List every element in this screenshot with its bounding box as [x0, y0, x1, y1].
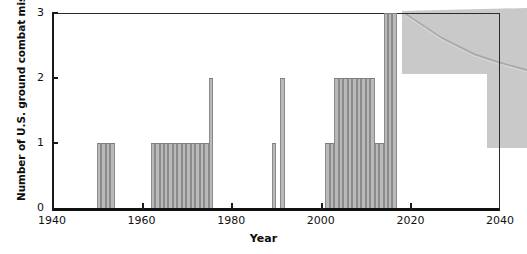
x-tick-label: 2040: [477, 215, 523, 226]
bar: [110, 143, 114, 208]
x-tick-mark: [410, 203, 412, 210]
x-axis-title: Year: [0, 232, 527, 245]
x-tick-label: 1980: [208, 215, 254, 226]
x-tick-mark: [321, 203, 323, 210]
y-tick-label: 0: [30, 202, 44, 213]
bars-layer: [52, 13, 500, 208]
x-tick-label: 2000: [298, 215, 344, 226]
bar: [272, 143, 276, 208]
bar: [392, 13, 396, 208]
x-tick-label: 1940: [29, 215, 75, 226]
plot-area: [52, 13, 500, 211]
bar: [209, 78, 213, 208]
x-tick-mark: [231, 203, 233, 210]
y-tick-label: 2: [30, 72, 44, 83]
bar: [280, 78, 284, 208]
y-tick-mark: [52, 142, 58, 144]
x-tick-mark: [142, 203, 144, 210]
x-tick-label: 2020: [387, 215, 433, 226]
chart-figure: 0123 Number of U.S. ground combat missio…: [0, 0, 527, 254]
y-axis-title: Number of U.S. ground combat missions: [15, 1, 27, 201]
y-tick-label: 3: [30, 7, 44, 18]
x-tick-label: 1960: [119, 215, 165, 226]
y-tick-label: 1: [30, 137, 44, 148]
y-tick-mark: [52, 12, 58, 14]
y-tick-mark: [52, 77, 58, 79]
